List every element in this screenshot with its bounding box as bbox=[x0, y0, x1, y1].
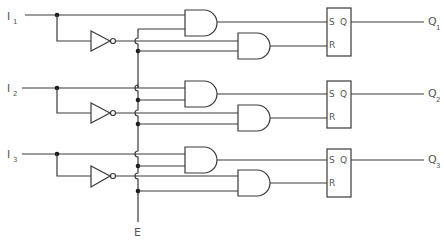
input-sub-1: 1 bbox=[13, 18, 17, 26]
ff-r-label: R bbox=[329, 112, 335, 122]
input-label-2: I bbox=[7, 82, 10, 95]
channel-1: I 1 S Q R Q 1 bbox=[7, 8, 440, 59]
ff-r-label: R bbox=[329, 178, 335, 188]
not-gate-icon bbox=[91, 103, 110, 123]
output-sub-2: 2 bbox=[436, 96, 440, 104]
and-gate-icon bbox=[185, 10, 217, 36]
ff-q-label: Q bbox=[340, 89, 347, 99]
and-gate-icon bbox=[238, 33, 270, 59]
channel-3: I 3 S Q R Q 3 bbox=[7, 147, 440, 197]
ff-r-label: R bbox=[329, 40, 335, 50]
ff-q-label: Q bbox=[340, 17, 347, 27]
input-sub-3: 3 bbox=[13, 156, 17, 164]
ff-s-label: S bbox=[329, 155, 335, 165]
input-label-1: I bbox=[7, 10, 10, 23]
ff-s-label: S bbox=[329, 17, 335, 27]
not-gate-icon bbox=[91, 166, 110, 187]
channel-2: I 2 S Q R Q 2 bbox=[7, 81, 440, 131]
and-gate-icon bbox=[238, 170, 270, 196]
input-label-3: I bbox=[7, 148, 10, 161]
output-sub-1: 1 bbox=[436, 24, 440, 32]
logic-circuit-diagram: E I 1 S Q R Q 1 I 2 bbox=[0, 0, 444, 247]
enable-label: E bbox=[134, 226, 141, 239]
ff-s-label: S bbox=[329, 89, 335, 99]
and-gate-icon bbox=[185, 147, 217, 173]
input-sub-2: 2 bbox=[13, 90, 17, 98]
output-sub-3: 3 bbox=[436, 162, 440, 170]
enable-bus: E bbox=[134, 29, 141, 239]
not-gate-icon bbox=[91, 31, 110, 51]
ff-q-label: Q bbox=[340, 155, 347, 165]
and-gate-icon bbox=[238, 105, 270, 131]
and-gate-icon bbox=[185, 81, 217, 107]
